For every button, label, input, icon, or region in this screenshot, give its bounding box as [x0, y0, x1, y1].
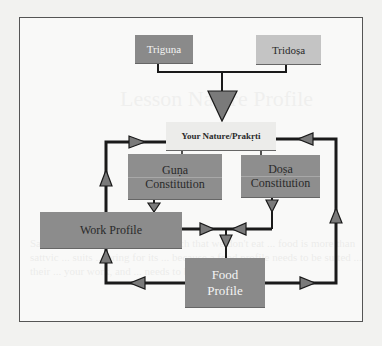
arrow-right-bottom	[300, 277, 315, 289]
node-nature-prakrti: Your Nature/Prakṛti	[166, 122, 276, 150]
arrow-down-guna	[148, 203, 160, 212]
node-tridosa: Tridoṣa	[256, 35, 321, 64]
food-label-line2: Profile	[207, 283, 242, 299]
arrow-up-right	[330, 208, 342, 223]
node-dosa-constitution: Doṣa Constitution	[241, 155, 320, 197]
arrow-down-dosa	[266, 200, 278, 212]
node-food-profile: Food Profile	[185, 258, 265, 307]
guna-label-line1: Guṇa	[162, 163, 188, 177]
guna-label-line2: Constitution	[145, 177, 204, 191]
node-triguna: Triguṇa	[135, 35, 193, 63]
arrow-down-main	[208, 91, 237, 121]
arrow-left-junction	[232, 223, 246, 235]
dosa-label-line1: Doṣa	[268, 162, 293, 176]
arrow-up-left	[100, 170, 112, 186]
node-guna-constitution: Guṇa Constitution	[128, 154, 222, 199]
node-work-profile: Work Profile	[40, 212, 182, 248]
dosa-label-line2: Constitution	[251, 176, 310, 190]
food-label-line1: Food	[212, 267, 239, 283]
arrow-right-top-left	[129, 136, 145, 148]
arrow-left-bottom	[130, 277, 145, 289]
arrow-up-bottom-left	[100, 249, 112, 263]
arrow-left-top-right	[298, 133, 313, 145]
arrow-right-junction	[200, 223, 214, 235]
arrow-down-junction	[220, 235, 232, 248]
